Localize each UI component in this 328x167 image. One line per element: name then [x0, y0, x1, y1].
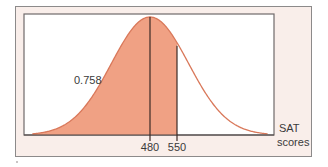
x-axis-label-line1: SAT	[279, 122, 300, 134]
area-annotation: 0.758	[74, 74, 102, 86]
normal-curve-chart: 480 550 0.758 SAT scores	[0, 0, 328, 167]
x-tick-label-480: 480	[141, 141, 159, 153]
x-axis-label-line2: scores	[277, 136, 310, 148]
x-tick-label-550: 550	[168, 141, 186, 153]
